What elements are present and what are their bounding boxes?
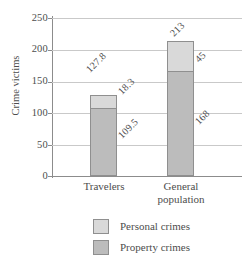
y-tick-100: 100 — [4, 108, 48, 119]
legend-swatch-personal-crimes — [93, 219, 109, 234]
bar-general-population[interactable] — [167, 41, 194, 176]
legend: Personal crimes Property crimes — [93, 216, 190, 258]
y-tick-200: 200 — [4, 44, 48, 55]
x-axis-line — [52, 176, 242, 177]
bar-segment-travelers-property[interactable] — [91, 108, 116, 175]
y-axis-tick-labels: 250 200 150 100 50 0 — [0, 0, 48, 267]
x-axis-label-general-population: General population — [133, 180, 229, 206]
legend-item-property-crimes[interactable]: Property crimes — [93, 237, 190, 258]
x-axis-label-general-line1: General — [164, 180, 199, 192]
legend-swatch-property-crimes — [93, 240, 109, 255]
y-tick-150: 150 — [4, 76, 48, 87]
x-axis-label-general-line2: population — [157, 193, 204, 205]
gridline-250 — [52, 18, 242, 19]
y-tick-250: 250 — [4, 13, 48, 24]
gridline-50 — [52, 145, 242, 146]
x-axis-label-travelers-line1: Travelers — [83, 180, 124, 192]
bar-segment-general-property[interactable] — [168, 71, 193, 175]
bar-segment-general-personal[interactable] — [168, 42, 193, 71]
legend-label-property-crimes: Property crimes — [120, 242, 190, 253]
gridline-150 — [52, 82, 242, 83]
gridline-100 — [52, 113, 242, 114]
legend-label-personal-crimes: Personal crimes — [120, 221, 190, 232]
legend-item-personal-crimes[interactable]: Personal crimes — [93, 216, 190, 237]
y-tick-50: 50 — [4, 140, 48, 151]
plot-area — [52, 18, 242, 176]
gridline-200 — [52, 50, 242, 51]
bar-travelers[interactable] — [90, 95, 117, 176]
y-tick-0: 0 — [4, 171, 48, 182]
bar-segment-travelers-personal[interactable] — [91, 96, 116, 108]
crime-victims-stacked-bar-chart: Crime victims 250 200 150 100 50 0 — [0, 0, 245, 267]
